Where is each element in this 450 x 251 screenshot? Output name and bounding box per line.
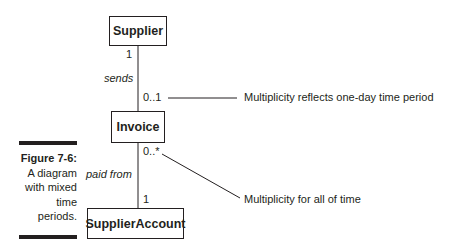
paid-from-association-name: paid from <box>86 168 132 180</box>
figure-number: Figure 7-6: <box>21 151 77 166</box>
caption-line: A diagram <box>21 166 77 181</box>
supplier-class-box: Supplier <box>109 16 167 46</box>
sends-invoice-multiplicity: 0..1 <box>143 91 161 103</box>
figure-caption: Figure 7-6: A diagram with mixed time pe… <box>21 151 77 224</box>
sends-supplier-multiplicity: 1 <box>126 48 132 60</box>
paid-from-account-multiplicity: 1 <box>143 193 149 205</box>
caption-line: time <box>21 195 77 210</box>
caption-line: periods. <box>21 209 77 224</box>
invoice-class-name: Invoice <box>116 120 159 134</box>
sends-association-name: sends <box>104 72 133 84</box>
paid-from-invoice-multiplicity: 0..* <box>143 145 160 157</box>
caption-line: with mixed <box>21 180 77 195</box>
supplier-account-class-name: SupplierAccount <box>86 217 186 231</box>
one-day-annotation: Multiplicity reflects one-day time perio… <box>244 91 434 103</box>
caption-bottom-rule <box>19 235 77 239</box>
supplier-class-name: Supplier <box>113 24 163 38</box>
all-time-annotation: Multiplicity for all of time <box>244 193 361 205</box>
caption-top-rule <box>19 141 77 145</box>
all-time-leader-line <box>162 154 240 198</box>
supplier-account-class-box: SupplierAccount <box>87 208 184 239</box>
invoice-class-box: Invoice <box>111 111 165 143</box>
